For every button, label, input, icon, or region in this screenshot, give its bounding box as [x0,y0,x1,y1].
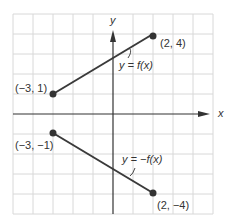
point-label-neg-f-start: (−3, −1) [15,140,54,151]
y-axis-label: y [110,15,116,26]
coordinate-plane [0,0,230,220]
x-axis-label: x [218,108,224,119]
x-axis-arrow-icon [198,111,210,117]
point-label-neg-f-end: (2, −4) [157,200,189,211]
point-label-f-end: (2, 4) [160,38,186,49]
y-axis-arrow-icon [110,30,116,42]
axes [13,30,210,214]
curve-label-f: y = f(x) [119,60,153,71]
point-label-f-start: (−3, 1) [15,83,47,94]
curve-label-neg-f: y = −f(x) [122,154,162,165]
